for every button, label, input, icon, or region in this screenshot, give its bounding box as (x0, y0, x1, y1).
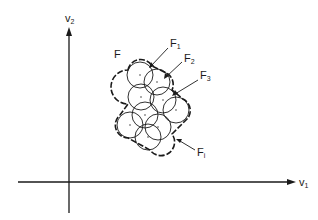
callout-f2-leader (166, 62, 182, 77)
y-axis-label: v2 (65, 13, 74, 25)
covering-circles (117, 62, 189, 150)
callout-fi-label: Fi (197, 147, 205, 159)
y-axis-arrow-icon (66, 27, 72, 36)
callout-f1-leader (151, 48, 168, 66)
callout-f3-label: F3 (200, 70, 211, 82)
callout-f2-label: F2 (184, 53, 195, 65)
x-axis-arrow-icon (287, 179, 296, 185)
callout-fi-leader (180, 141, 195, 150)
x-axis-label: v1 (299, 177, 308, 189)
diagram-canvas (0, 0, 318, 220)
callout-f1-label: F1 (170, 38, 181, 50)
callout-f3-leader (175, 80, 198, 94)
set-f-label: F (114, 49, 121, 60)
callout-fi-arrow-icon (176, 139, 182, 143)
